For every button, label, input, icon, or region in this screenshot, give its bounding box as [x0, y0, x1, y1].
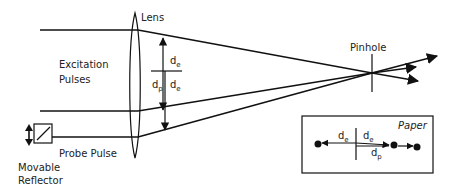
excitation-label-line1: Excitation	[59, 59, 109, 70]
probe-pulse-label: Probe Pulse	[59, 148, 117, 159]
paper-dp: dp	[371, 147, 382, 161]
paper-label: Paper	[398, 120, 428, 131]
lens-label: Lens	[141, 12, 164, 23]
reflector-move-arrow-icon	[25, 124, 33, 146]
reflector-label-line2: Reflector	[18, 175, 64, 186]
paper-de-right: de	[363, 130, 374, 144]
probe-beam	[52, 73, 372, 137]
paper-de-left: de	[338, 130, 349, 144]
optical-setup-diagram: Lens Excitation Pulses Probe Pulse Movab…	[0, 0, 452, 187]
reflector-label-line1: Movable	[18, 162, 60, 173]
pinhole-label: Pinhole	[350, 42, 386, 53]
movable-reflector	[34, 124, 52, 143]
excitation-label-line2: Pulses	[59, 74, 91, 85]
dp-label: dp	[152, 79, 163, 93]
outgoing-beams	[372, 56, 437, 81]
de-label-lower: de	[170, 79, 181, 93]
de-label-upper: de	[170, 55, 181, 69]
